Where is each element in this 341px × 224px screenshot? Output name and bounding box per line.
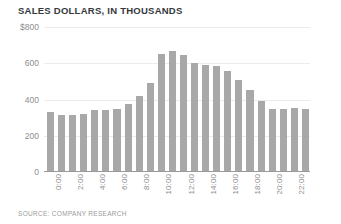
bar	[213, 66, 220, 172]
y-axis-tick-label: 400	[25, 95, 39, 105]
chart-source-note: SOURCE: COMPANY RESEARCH	[18, 210, 127, 217]
plot-area	[44, 27, 310, 172]
x-axis-tick-label: 18:00	[253, 174, 262, 195]
x-axis-tick-label: 20:00	[275, 174, 284, 195]
bar	[158, 54, 165, 172]
y-axis-tick-labels: 0200400600$800	[0, 27, 39, 172]
x-axis-tick-label: 14:00	[209, 174, 218, 195]
bar	[80, 114, 87, 172]
bar	[235, 80, 242, 172]
chart-title: SALES DOLLARS, IN THOUSANDS	[18, 5, 183, 16]
y-axis-tick-label: 200	[25, 131, 39, 141]
bar	[91, 110, 98, 172]
bar	[224, 71, 231, 173]
x-axis-tick-label: 22:00	[297, 174, 306, 195]
bar	[269, 109, 276, 172]
x-axis-tick-label: 0:00	[54, 174, 63, 190]
bar	[113, 109, 120, 172]
bar	[58, 115, 65, 172]
bar	[191, 63, 198, 172]
bar	[291, 108, 298, 172]
bar	[202, 65, 209, 172]
x-axis-tick-labels: 0:002:004:006:008:0010:0012:0014:0016:00…	[44, 174, 310, 208]
bar	[180, 55, 187, 172]
bar	[246, 90, 253, 172]
bar	[69, 115, 76, 172]
y-axis-tick-label: 0	[34, 167, 39, 177]
bar	[258, 101, 265, 172]
x-axis-tick-label: 16:00	[231, 174, 240, 195]
bar	[102, 110, 109, 172]
bar	[147, 83, 154, 172]
x-axis-tick-label: 2:00	[76, 174, 85, 190]
x-axis-tick-label: 10:00	[164, 174, 173, 195]
bar	[125, 104, 132, 172]
bar-series	[44, 27, 310, 172]
x-axis-tick-label: 8:00	[142, 174, 151, 190]
bar	[169, 51, 176, 172]
bar	[47, 112, 54, 172]
x-axis-tick-label: 12:00	[187, 174, 196, 195]
y-axis-tick-label: 600	[25, 58, 39, 68]
y-axis-tick-label: $800	[20, 22, 39, 32]
x-axis-tick-label: 4:00	[98, 174, 107, 190]
bar	[302, 109, 309, 172]
bar	[136, 96, 143, 172]
sales-bar-chart: SALES DOLLARS, IN THOUSANDS 0200400600$8…	[0, 0, 341, 224]
bar	[280, 109, 287, 172]
x-axis-tick-label: 6:00	[120, 174, 129, 190]
x-axis-baseline	[44, 171, 310, 172]
